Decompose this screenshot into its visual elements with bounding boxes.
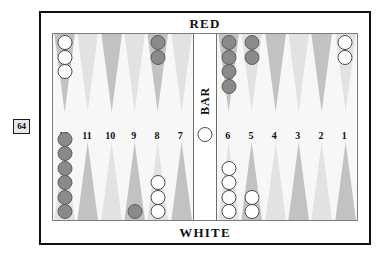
point-4-bottom[interactable] [264, 142, 287, 220]
checker-white[interactable] [57, 35, 72, 50]
point-10-top[interactable] [100, 34, 123, 112]
point-2-bottom[interactable] [310, 142, 333, 220]
point-3-top[interactable] [287, 34, 310, 112]
checker-red[interactable] [57, 204, 72, 219]
checker-white[interactable] [221, 161, 236, 176]
checker-stack[interactable] [127, 205, 142, 220]
checker-red[interactable] [244, 50, 259, 65]
checker-white[interactable] [338, 50, 353, 65]
point-6-top[interactable] [217, 34, 240, 112]
checker-stack[interactable] [244, 190, 259, 219]
checker-white[interactable] [244, 204, 259, 219]
point-11-bottom[interactable] [76, 142, 99, 220]
checker-red[interactable] [150, 35, 165, 50]
point-6-bottom[interactable] [217, 142, 240, 220]
point-5-top[interactable] [240, 34, 263, 112]
checker-white[interactable] [221, 204, 236, 219]
checker-white[interactable] [57, 50, 72, 65]
checker-white[interactable] [244, 190, 259, 205]
checker-stack[interactable] [57, 35, 72, 79]
point-10-bottom[interactable] [100, 142, 123, 220]
checker-white[interactable] [338, 35, 353, 50]
doubling-cube-value: 64 [17, 122, 25, 131]
checker-red[interactable] [57, 132, 72, 147]
point-4-top[interactable] [264, 34, 287, 112]
point-3-bottom[interactable] [287, 142, 310, 220]
checker-stack[interactable] [244, 35, 259, 64]
checker-red[interactable] [150, 50, 165, 65]
point-7-bottom[interactable] [170, 142, 193, 220]
checker-red[interactable] [57, 146, 72, 161]
checker-red[interactable] [57, 161, 72, 176]
point-2-top[interactable] [310, 34, 333, 112]
checker-red[interactable] [57, 190, 72, 205]
checker-red[interactable] [221, 64, 236, 79]
bar-checker-stack[interactable] [198, 127, 213, 142]
point-1-bottom[interactable] [334, 142, 357, 220]
checker-stack[interactable] [338, 35, 353, 64]
checker-stack[interactable] [150, 176, 165, 220]
bar-column[interactable]: BAR [193, 34, 217, 220]
point-1-top[interactable] [334, 34, 357, 112]
checker-white[interactable] [150, 204, 165, 219]
bottom-player-label: WHITE [41, 225, 369, 241]
bar-label: BAR [198, 87, 213, 115]
checker-red[interactable] [221, 50, 236, 65]
point-9-top[interactable] [123, 34, 146, 112]
checker-white[interactable] [150, 175, 165, 190]
checker-stack[interactable] [221, 161, 236, 219]
checker-white[interactable] [57, 64, 72, 79]
checker-stack[interactable] [221, 35, 236, 93]
checker-red[interactable] [244, 35, 259, 50]
checker-stack[interactable] [150, 35, 165, 64]
top-player-label: RED [41, 16, 369, 32]
checker-red[interactable] [57, 175, 72, 190]
point-9-bottom[interactable] [123, 142, 146, 220]
checker-red[interactable] [221, 35, 236, 50]
point-7-top[interactable] [170, 34, 193, 112]
board-half-left [53, 34, 193, 220]
checker-red[interactable] [221, 79, 236, 94]
doubling-cube[interactable]: 64 [13, 119, 30, 134]
checker-white[interactable] [221, 175, 236, 190]
checker-white[interactable] [150, 190, 165, 205]
point-11-top[interactable] [76, 34, 99, 112]
backgammon-board: RED WHITE BAR 121110987654321 [39, 11, 371, 245]
point-8-bottom[interactable] [146, 142, 169, 220]
playing-field: BAR [52, 33, 358, 221]
checker-stack[interactable] [57, 132, 72, 219]
checker-white[interactable] [198, 127, 213, 142]
board-half-right [217, 34, 357, 220]
point-12-bottom[interactable] [53, 142, 76, 220]
checker-white[interactable] [221, 190, 236, 205]
point-5-bottom[interactable] [240, 142, 263, 220]
checker-red[interactable] [127, 204, 142, 219]
point-12-top[interactable] [53, 34, 76, 112]
point-8-top[interactable] [146, 34, 169, 112]
